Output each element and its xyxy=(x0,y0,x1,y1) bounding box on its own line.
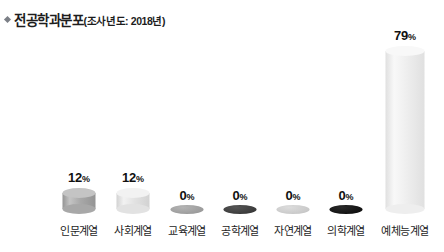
bar-group[interactable]: 79%예체능계열 xyxy=(374,0,436,252)
bar-value-percent-sign: % xyxy=(82,174,90,184)
category-label-5: 의학계열 xyxy=(315,226,377,237)
bar-value-label: 79% xyxy=(374,27,436,43)
bar-value-label: 0% xyxy=(315,187,377,203)
bar-cylinder[interactable] xyxy=(386,46,425,214)
bar-group[interactable]: 12%사회계열 xyxy=(102,0,164,252)
category-label-1: 사회계열 xyxy=(102,226,164,237)
bar-group[interactable]: 0%의학계열 xyxy=(315,0,377,252)
bar-value-percent-sign: % xyxy=(186,192,194,202)
bar-cap-top xyxy=(63,188,96,198)
bar-zero-ellipse[interactable] xyxy=(171,205,204,214)
bar-value-percent-sign: % xyxy=(408,32,416,42)
bar-value-percent-sign: % xyxy=(239,192,247,202)
bar-value-label: 12% xyxy=(102,169,164,185)
bar-zero-ellipse[interactable] xyxy=(277,205,310,214)
bar-cap-bottom xyxy=(117,204,150,214)
category-label-6: 예체능계열 xyxy=(374,226,436,237)
bar-cylinder[interactable] xyxy=(63,188,96,214)
category-label-0: 인문계열 xyxy=(48,226,110,237)
bar-value-number: 12 xyxy=(122,170,136,185)
bar-value-number: 79 xyxy=(394,28,408,43)
bar-cap-top xyxy=(117,188,150,198)
chart-plot-area: 12%인문계열12%사회계열0%교육계열0%공학계열0%자연계열0%의학계열79… xyxy=(0,0,444,252)
bar-cap-bottom xyxy=(386,204,425,214)
bar-cap-bottom xyxy=(63,204,96,214)
bar-zero-ellipse[interactable] xyxy=(224,205,257,214)
bar-cap-top xyxy=(386,46,425,56)
bar-group[interactable]: 12%인문계열 xyxy=(48,0,110,252)
bar-value-percent-sign: % xyxy=(136,174,144,184)
bar-value-label: 12% xyxy=(48,169,110,185)
bar-zero-ellipse[interactable] xyxy=(330,205,363,214)
bar-body xyxy=(386,51,425,209)
bar-value-percent-sign: % xyxy=(292,192,300,202)
bar-value-percent-sign: % xyxy=(345,192,353,202)
bar-value-number: 12 xyxy=(68,170,82,185)
bar-cylinder[interactable] xyxy=(117,188,150,214)
